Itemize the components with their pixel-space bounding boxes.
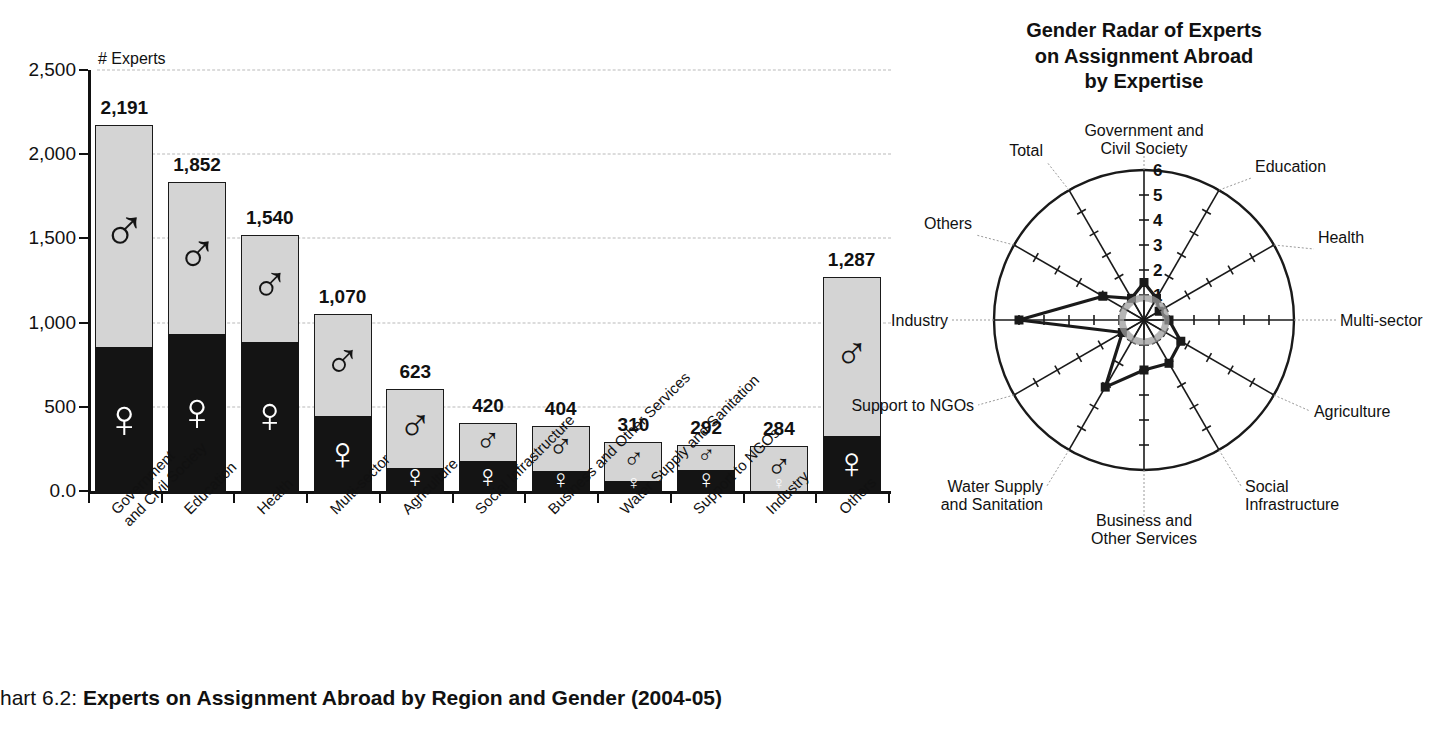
- radar-data-marker[interactable]: [1140, 366, 1149, 375]
- radar-data-marker[interactable]: [1165, 359, 1174, 368]
- radar-data-marker[interactable]: [1101, 383, 1110, 392]
- x-tick-mark: [452, 494, 454, 503]
- radar-tick-mark: [1033, 378, 1038, 387]
- radar-category-label: Support to NGOs: [851, 397, 974, 414]
- y-tick-label: 500: [44, 396, 76, 418]
- radar-tick-mark: [1102, 253, 1111, 258]
- radar-tick-mark: [1206, 353, 1211, 362]
- bar-value-label: 1,070: [319, 286, 367, 308]
- radar-tick-mark: [1228, 266, 1233, 275]
- y-tick-mark: [79, 237, 88, 239]
- radar-tick-mark: [1077, 209, 1086, 214]
- radar-tick-mark: [1090, 231, 1099, 236]
- radar-category-label-line: Others: [924, 215, 972, 232]
- radar-category-label-line: Support to NGOs: [851, 397, 974, 414]
- radar-category-label-line: Other Services: [1091, 530, 1197, 547]
- y-tick-mark: [79, 490, 88, 492]
- radar-category-label-line: Business and: [1096, 512, 1192, 529]
- y-tick-label: 1,500: [28, 227, 76, 249]
- radar-label-leader-line: [1047, 162, 1069, 190]
- radar-scale-number: 4: [1153, 211, 1163, 230]
- radar-tick-mark: [1077, 353, 1082, 362]
- y-tick-mark: [79, 69, 88, 71]
- radar-category-label-line: Water Supply: [948, 478, 1043, 495]
- radar-category-label: Agriculture: [1314, 403, 1391, 420]
- radar-category-label: Others: [924, 215, 972, 232]
- x-tick-mark: [743, 494, 745, 503]
- radar-category-label-line: Industry: [891, 312, 948, 329]
- y-tick-label: 1,000: [28, 312, 76, 334]
- radar-scale-number: 2: [1153, 261, 1162, 280]
- radar-scale-number: 6: [1153, 161, 1162, 180]
- radar-tick-mark: [1090, 404, 1099, 409]
- radar-category-label: Health: [1318, 229, 1364, 246]
- radar-label-leader-line: [1274, 395, 1310, 411]
- bar-value-label: 420: [472, 395, 504, 417]
- radar-data-marker[interactable]: [1176, 337, 1185, 346]
- radar-label-leader-line: [1047, 450, 1069, 486]
- x-tick-mark: [233, 494, 235, 503]
- radar-scale-number: 3: [1153, 236, 1162, 255]
- radar-tick-mark: [1190, 231, 1199, 236]
- radar-label-leader-line: [1219, 450, 1241, 486]
- radar-tick-mark: [1177, 253, 1186, 258]
- radar-tick-mark: [1055, 366, 1060, 375]
- x-tick-mark: [88, 494, 90, 503]
- radar-tick-mark: [1077, 278, 1082, 287]
- radar-label-leader-line: [976, 235, 1014, 245]
- x-tick-mark: [815, 494, 817, 503]
- radar-data-marker[interactable]: [1015, 316, 1024, 325]
- y-axis-title: # Experts: [98, 50, 166, 68]
- radar-category-label-line: Government and: [1084, 122, 1203, 139]
- radar-category-label: Government andCivil Society: [1084, 122, 1203, 157]
- radar-tick-mark: [1185, 341, 1190, 350]
- bar-segment-female[interactable]: [241, 342, 299, 494]
- radar-label-leader-line: [978, 395, 1014, 405]
- radar-category-label: Total: [1009, 142, 1043, 159]
- y-tick-label: 2,000: [28, 143, 76, 165]
- bar-value-label: 1,540: [246, 207, 294, 229]
- radar-label-leader-line: [1219, 178, 1251, 190]
- y-tick-mark: [79, 153, 88, 155]
- bar-value-label: 623: [399, 361, 431, 383]
- radar-category-label-line: Agriculture: [1314, 403, 1391, 420]
- radar-tick-mark: [1115, 361, 1124, 366]
- bar-group[interactable]: ♂♀1,540: [241, 235, 299, 494]
- radar-svg: 123456Government andCivil SocietyEducati…: [840, 0, 1448, 660]
- radar-tick-mark: [1190, 404, 1199, 409]
- radar-category-label-line: Civil Society: [1100, 140, 1187, 157]
- radar-tick-mark: [1098, 341, 1103, 350]
- radar-tick-mark: [1115, 274, 1124, 279]
- y-tick-mark: [79, 322, 88, 324]
- bar-value-label: 1,852: [173, 154, 221, 176]
- radar-tick-mark: [1055, 266, 1060, 275]
- radar-tick-mark: [1165, 274, 1174, 279]
- radar-tick-mark: [1250, 378, 1255, 387]
- radar-category-label-line: Infrastructure: [1245, 496, 1339, 513]
- radar-category-label-line: Education: [1255, 158, 1326, 175]
- caption-number: hart 6.2:: [0, 686, 77, 709]
- radar-category-label-line: Health: [1318, 229, 1364, 246]
- x-tick-mark: [670, 494, 672, 503]
- radar-tick-mark: [1202, 209, 1211, 214]
- y-tick-mark: [79, 406, 88, 408]
- radar-tick-mark: [1202, 426, 1211, 431]
- radar-data-marker[interactable]: [1098, 292, 1107, 301]
- radar-category-label-line: Social: [1245, 478, 1289, 495]
- radar-category-label: Education: [1255, 158, 1326, 175]
- radar-category-label-line: and Sanitation: [941, 496, 1043, 513]
- radar-tick-mark: [1077, 426, 1086, 431]
- x-tick-mark: [524, 494, 526, 503]
- radar-category-label: Business andOther Services: [1091, 512, 1197, 547]
- radar-tick-mark: [1033, 253, 1038, 262]
- x-tick-mark: [379, 494, 381, 503]
- chart-caption: hart 6.2: Experts on Assignment Abroad b…: [0, 686, 1448, 710]
- radar-data-marker[interactable]: [1140, 278, 1149, 287]
- bar-group[interactable]: ♂♀2,191: [95, 125, 153, 494]
- x-tick-mark: [597, 494, 599, 503]
- radar-label-leader-line: [1274, 245, 1314, 249]
- radar-chart: Gender Radar of Experts on Assignment Ab…: [840, 0, 1448, 660]
- radar-category-label: Multi-sector: [1340, 312, 1423, 329]
- radar-tick-mark: [1206, 278, 1211, 287]
- bar-value-label: 2,191: [101, 97, 149, 119]
